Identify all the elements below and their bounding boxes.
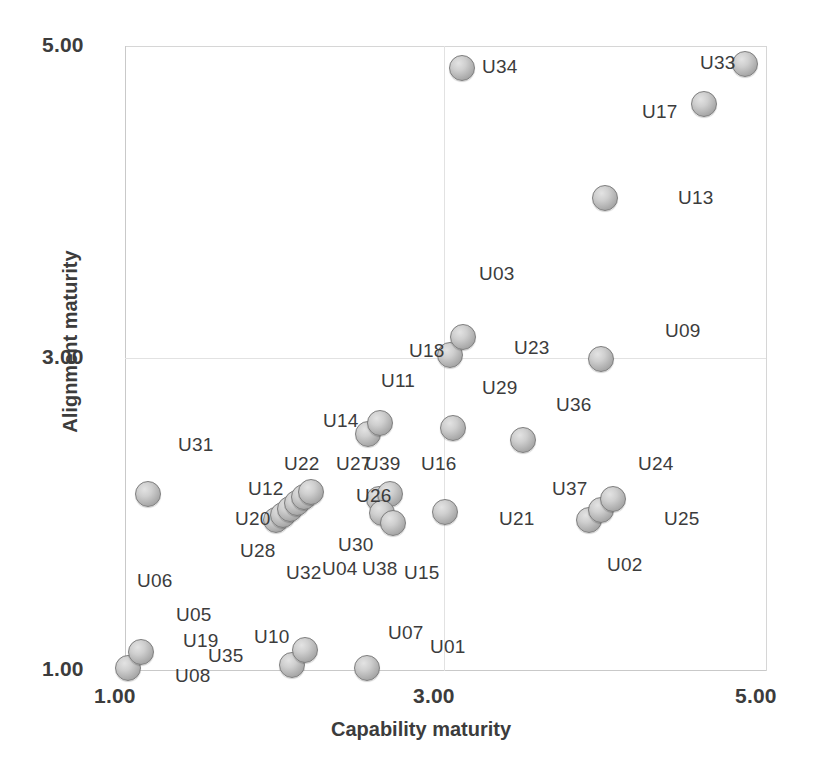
point-label-u29: U29 (482, 377, 517, 399)
point-label-u08: U08 (175, 665, 210, 687)
point-label-u10: U10 (254, 626, 289, 648)
point-label-u12: U12 (248, 478, 283, 500)
point-label-u35: U35 (208, 645, 243, 667)
y-tick-label-5: 5.00 (42, 33, 84, 57)
y-axis-title: Alignment maturity (59, 212, 82, 472)
data-point[interactable] (600, 486, 626, 512)
point-label-u32: U32 (286, 562, 321, 584)
data-point[interactable] (449, 55, 475, 81)
data-point[interactable] (292, 637, 318, 663)
point-label-u23: U23 (514, 337, 549, 359)
point-label-u16: U16 (421, 453, 456, 475)
data-point[interactable] (510, 427, 536, 453)
point-label-u04: U04 (322, 558, 357, 580)
scatter-chart: 5.00 3.00 1.00 1.00 3.00 5.00 Capability… (0, 0, 821, 777)
plot-frame-top (125, 46, 766, 47)
plot-frame-bottom (125, 670, 766, 671)
point-label-u21: U21 (499, 508, 534, 530)
point-label-u09: U09 (665, 320, 700, 342)
point-label-u24: U24 (638, 453, 673, 475)
data-point[interactable] (440, 415, 466, 441)
data-point[interactable] (298, 479, 324, 505)
data-point[interactable] (732, 51, 758, 77)
data-point[interactable] (367, 410, 393, 436)
point-label-u34: U34 (482, 56, 517, 78)
point-label-u05: U05 (176, 604, 211, 626)
data-point[interactable] (450, 324, 476, 350)
data-point[interactable] (592, 185, 618, 211)
plot-frame-right (766, 46, 767, 671)
point-label-u30: U30 (338, 534, 373, 556)
point-label-u28: U28 (240, 540, 275, 562)
data-point[interactable] (691, 91, 717, 117)
data-point[interactable] (128, 639, 154, 665)
data-point[interactable] (354, 655, 380, 681)
point-label-u38: U38 (362, 558, 397, 580)
point-label-u01: U01 (430, 636, 465, 658)
point-label-u11: U11 (381, 370, 415, 392)
point-label-u14: U14 (323, 410, 358, 432)
data-point[interactable] (135, 481, 161, 507)
y-tick-label-1: 1.00 (42, 657, 84, 681)
point-label-u36: U36 (556, 394, 591, 416)
point-label-u13: U13 (678, 187, 713, 209)
point-label-u02: U02 (607, 554, 642, 576)
point-label-u31: U31 (178, 434, 213, 456)
point-label-u37: U37 (552, 478, 587, 500)
point-label-u22: U22 (284, 453, 319, 475)
point-label-u07: U07 (388, 622, 423, 644)
data-point[interactable] (380, 510, 406, 536)
point-label-u18: U18 (409, 340, 444, 362)
point-label-u06: U06 (137, 570, 172, 592)
point-label-u03: U03 (479, 263, 514, 285)
x-tick-label-1: 1.00 (94, 684, 136, 708)
x-tick-label-5: 5.00 (735, 684, 777, 708)
point-label-u17: U17 (642, 101, 677, 123)
point-label-u20: U20 (235, 508, 270, 530)
point-label-u27: U27 (336, 453, 371, 475)
x-tick-label-3: 3.00 (413, 684, 455, 708)
point-label-u15: U15 (404, 562, 439, 584)
x-axis-title: Capability maturity (331, 718, 511, 741)
point-label-u33: U33 (700, 52, 735, 74)
point-label-u25: U25 (664, 508, 699, 530)
data-point[interactable] (588, 346, 614, 372)
point-label-u26: U26 (356, 485, 391, 507)
data-point[interactable] (432, 499, 458, 525)
